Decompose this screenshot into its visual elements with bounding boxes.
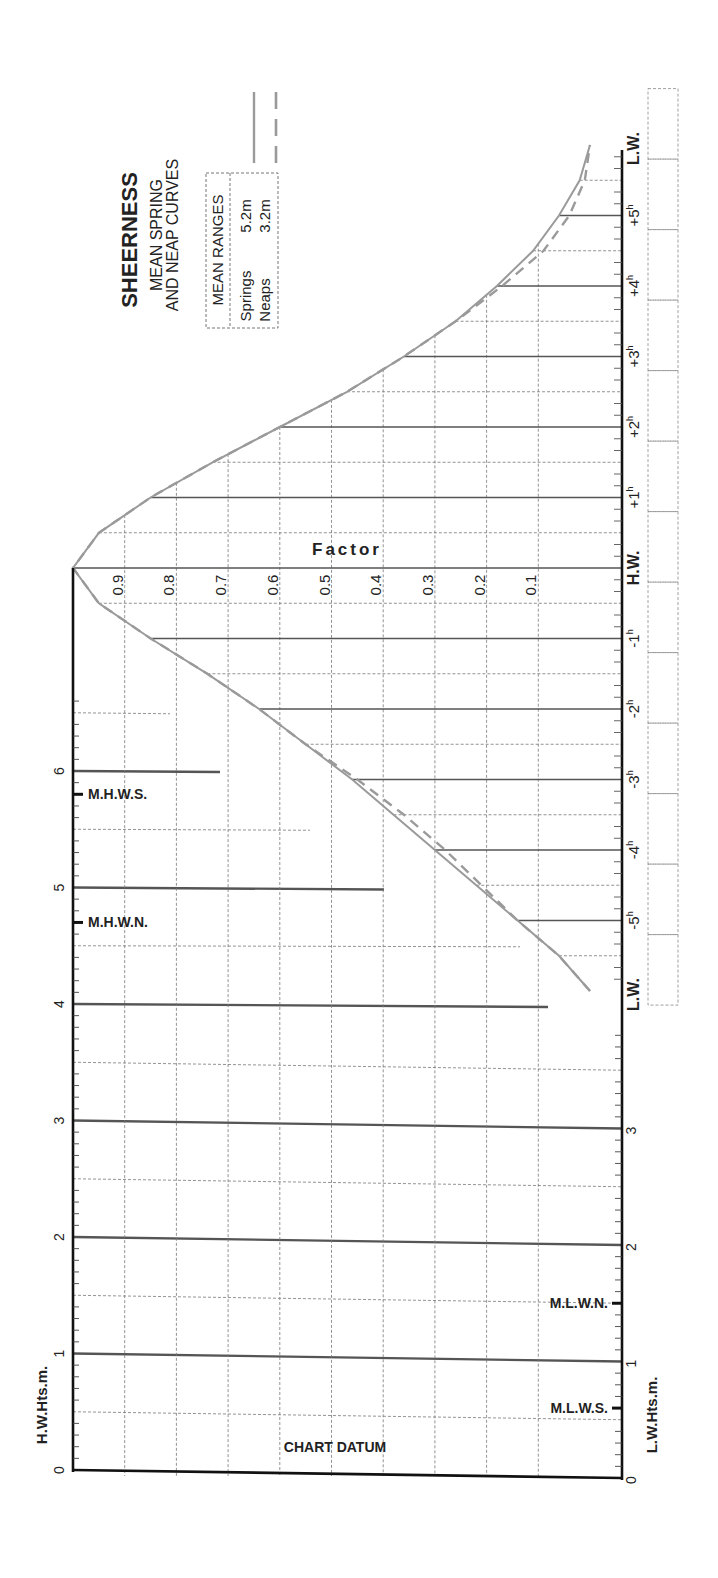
- lw-tick-label: 0: [623, 1476, 639, 1484]
- hw-tick-label: 6: [51, 767, 67, 775]
- hw-tick-label: 0: [51, 1466, 67, 1474]
- time-entry-box[interactable]: [648, 512, 678, 582]
- grid-line-half-metre: [73, 829, 310, 830]
- hw-tick-label: 1: [51, 1349, 67, 1357]
- time-label-minus2: -2h: [625, 700, 642, 718]
- grid-line-half-metre: [73, 946, 520, 947]
- time-label-minus3: -3h: [625, 770, 642, 788]
- subtitle-line1: MEAN SPRING: [148, 179, 165, 291]
- mean-ranges-header: MEAN RANGES: [209, 195, 226, 306]
- hw-time-label: H.W.: [625, 551, 642, 586]
- time-entry-box[interactable]: [648, 371, 678, 442]
- grid-line-half-metre: [73, 713, 170, 714]
- time-label-minus1: -1h: [625, 629, 642, 647]
- neaps-label: Neaps: [256, 278, 273, 321]
- factor-tick-label: 0.8: [160, 575, 177, 596]
- time-entry-box[interactable]: [648, 441, 678, 512]
- time-entry-box[interactable]: [648, 230, 678, 301]
- lw-tick-label: 3: [623, 1126, 639, 1134]
- factor-tick-label: 0.9: [109, 575, 126, 596]
- lw-tick-label: 2: [623, 1243, 639, 1251]
- lw-after-label: L.W.: [625, 132, 642, 165]
- station-title: SHEERNESS: [117, 172, 142, 308]
- tidal-chart-svg: 01234560123H.W.Hts.m.L.W.Hts.m.M.H.W.S.M…: [0, 0, 718, 1578]
- grid-line-height: [73, 1412, 622, 1420]
- grid-line-height: [73, 1295, 622, 1303]
- lw-before-label: L.W.: [625, 978, 642, 1011]
- time-label-plus2: +2h: [625, 416, 642, 438]
- time-label-minus4: -4h: [625, 841, 642, 859]
- hw-tick-label: 4: [51, 1000, 67, 1008]
- time-entry-box[interactable]: [648, 864, 678, 935]
- time-entry-box[interactable]: [648, 935, 678, 1006]
- subtitle-line2: AND NEAP CURVES: [164, 159, 181, 311]
- grid-line-metre: [73, 1354, 622, 1362]
- lw-tick-label: 1: [623, 1359, 639, 1367]
- factor-tick-label: 0.6: [264, 575, 281, 596]
- time-entry-box[interactable]: [648, 723, 678, 794]
- time-entry-box[interactable]: [648, 89, 678, 160]
- factor-tick-label: 0.4: [367, 575, 384, 596]
- springs-value: 5.2m: [237, 199, 254, 232]
- neaps-value: 3.2m: [256, 199, 273, 232]
- factor-axis-title: Factor: [312, 540, 382, 559]
- factor-tick-label: 0.3: [419, 575, 436, 596]
- chart-datum-label: CHART DATUM: [284, 1439, 386, 1455]
- hw-tick-label: 3: [51, 1116, 67, 1124]
- factor-tick-label: 0.5: [316, 575, 333, 596]
- time-label-minus5: -5h: [625, 911, 642, 929]
- factor-tick-label: 0.1: [522, 575, 539, 596]
- time-entry-box[interactable]: [648, 794, 678, 865]
- time-label-plus3: +3h: [625, 345, 642, 367]
- time-label-plus4: +4h: [625, 275, 642, 297]
- grid-line-metre-4: [73, 1004, 548, 1007]
- springs-label: Springs: [237, 271, 254, 322]
- grid-line-metre-6: [73, 771, 220, 772]
- lw-axis-title: L.W.Hts.m.: [643, 1377, 660, 1454]
- factor-tick-label: 0.2: [471, 575, 488, 596]
- time-entry-box[interactable]: [648, 159, 678, 230]
- factor-tick-label: 0.7: [212, 575, 229, 596]
- tidal-curve-diagram: 01234560123H.W.Hts.m.L.W.Hts.m.M.H.W.S.M…: [0, 0, 718, 1578]
- mhws-label: M.H.W.S.: [88, 786, 147, 802]
- grid-line-height: [73, 1062, 622, 1070]
- chart-datum-line: [73, 1470, 622, 1478]
- time-label-plus5: +5h: [625, 204, 642, 226]
- time-entry-box[interactable]: [648, 653, 678, 724]
- time-entry-box[interactable]: [648, 300, 678, 371]
- mlws-label: M.L.W.S.: [550, 1400, 608, 1416]
- grid-line-metre: [73, 1121, 622, 1129]
- time-label-plus1: +1h: [625, 486, 642, 508]
- mhwn-label: M.H.W.N.: [88, 914, 148, 930]
- grid-line-metre: [73, 1237, 622, 1245]
- mlwn-label: M.L.W.N.: [550, 1295, 608, 1311]
- hw-axis-title: H.W.Hts.m.: [33, 1366, 50, 1444]
- hw-tick-label: 2: [51, 1233, 67, 1241]
- grid-line-height: [73, 1179, 622, 1187]
- time-entry-box[interactable]: [648, 582, 678, 653]
- hw-tick-label: 5: [51, 883, 67, 891]
